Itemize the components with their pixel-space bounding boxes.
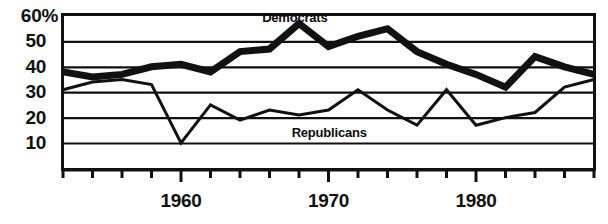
x-axis-tick-group (62, 169, 594, 182)
chart-container: 60%5040302010 196019701980 DemocratsRepu… (0, 0, 608, 224)
x-axis-tick-label-1960: 1960 (160, 190, 201, 212)
x-axis-tick-label-1980: 1980 (455, 190, 496, 212)
x-axis-tick-label-1970: 1970 (308, 190, 349, 212)
series-line-democrats (63, 24, 594, 88)
chart-plot-area (0, 0, 608, 224)
series-annotation-republicans: Republicans (292, 125, 367, 140)
series-annotation-democrats: Democrats (262, 10, 327, 25)
